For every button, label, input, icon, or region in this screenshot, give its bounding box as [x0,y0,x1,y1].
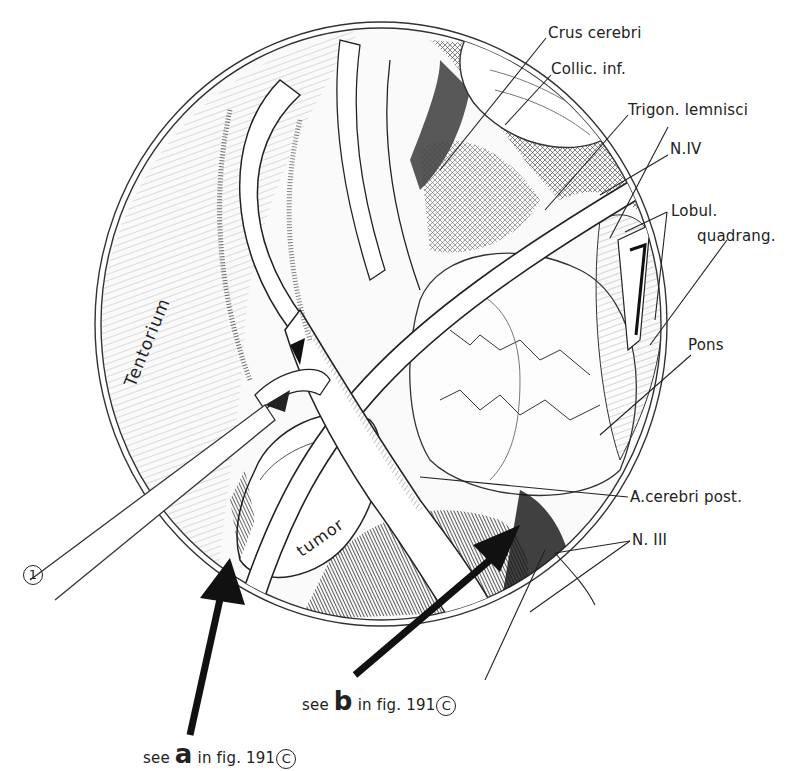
label-n-iii: N. III [632,533,667,548]
arrow-a [190,558,245,735]
instrument-number: 1 [22,565,43,585]
reference-b-letter: b [334,686,353,716]
reference-b-prefix: see [302,696,329,714]
label-n-iv: N.IV [670,142,701,157]
reference-a-prefix: see [143,749,170,767]
label-trigon-lemnisci: Trigon. lemnisci [628,103,748,118]
reference-a-suffix: in fig. 191 [198,749,276,767]
circled-c-icon: C [276,749,296,769]
label-pons: Pons [688,338,724,353]
instrument-number-badge: 1 [23,565,43,585]
reference-b: see b in fig. 191C [302,688,456,716]
label-collic-inf: Collic. inf. [551,62,626,77]
reference-b-suffix: in fig. 191 [358,696,436,714]
reference-a-letter: a [175,739,193,769]
label-crus-cerebri: Crus cerebri [548,26,642,41]
reference-a: see a in fig. 191C [143,741,296,769]
label-lobul: Lobul. [671,204,717,219]
label-a-cerebri-post: A.cerebri post. [630,490,742,505]
label-quadrang: quadrang. [697,229,776,244]
anatomical-figure: Crus cerebri Collic. inf. Trigon. lemnis… [0,0,793,771]
circled-c-icon: C [436,696,456,716]
